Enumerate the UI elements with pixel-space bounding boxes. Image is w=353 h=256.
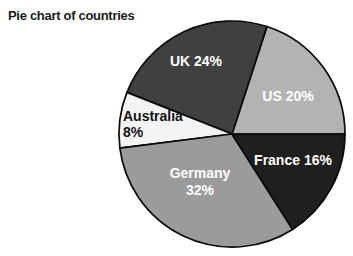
pie-slice-label-germany: 32% [186,182,215,198]
pie-slice-label-us: US 20% [262,88,314,104]
pie-chart-figure: Pie chart of countries US 20%UK 24%Austr… [0,0,353,256]
pie-slice-label-germany: Germany [170,165,231,181]
pie-slice-label-uk: UK 24% [170,53,223,69]
pie-slice-label-australia: Australia [123,108,183,124]
pie-chart: US 20%UK 24%Australia8%Germany32%France … [0,0,353,256]
pie-slice-label-france: France 16% [254,152,332,168]
pie-slice-label-australia: 8% [123,124,144,140]
